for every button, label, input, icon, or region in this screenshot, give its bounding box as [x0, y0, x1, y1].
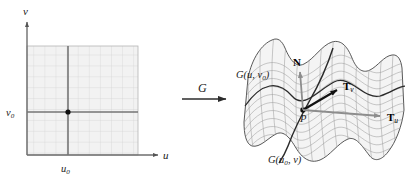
u0-tick-label: u0 [61, 163, 70, 176]
uv-domain-panel: v u v0 u0 [6, 5, 169, 176]
parametrized-surface-figure: v u v0 u0 G [0, 0, 413, 186]
normal-vector-label: N [293, 56, 301, 68]
v0-tick-label: v0 [6, 107, 15, 120]
u-axis-label: u [163, 149, 169, 161]
transformation-label: G [198, 81, 207, 95]
point-P-label: P [299, 113, 307, 124]
surface-panel: P N Tv Tu G(u, v0) G(u0, v) [236, 30, 406, 180]
uv-marked-point [65, 109, 70, 114]
v-curve-label: G(u0, v) [268, 154, 302, 167]
map-arrow-group: G [182, 81, 226, 99]
v-axis-label: v [23, 5, 28, 17]
uv-grid-square [27, 46, 138, 155]
